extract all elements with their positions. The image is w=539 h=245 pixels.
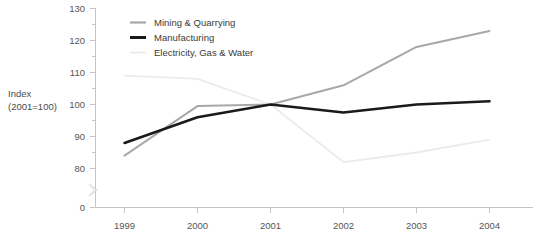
x-tick-label-2001: 2001: [260, 220, 281, 231]
y-tick-label-120: 120: [69, 35, 85, 46]
y-tick-label-130: 130: [69, 3, 85, 14]
legend-label-electricity: Electricity, Gas & Water: [154, 47, 253, 58]
legend-label-mining: Mining & Quarrying: [154, 17, 235, 28]
x-tick-label-1999: 1999: [114, 220, 135, 231]
x-axis-ticks: [125, 208, 490, 214]
y-tick-label-100: 100: [69, 99, 85, 110]
x-tick-label-2003: 2003: [406, 220, 427, 231]
y-axis-tick-labels: 130 120 110 100 90 80 0: [69, 3, 85, 213]
y-tick-label-110: 110: [70, 67, 85, 78]
y-tick-label-90: 90: [74, 131, 85, 142]
x-tick-label-2002: 2002: [333, 220, 354, 231]
x-tick-label-2000: 2000: [187, 220, 208, 231]
y-tick-label-80: 80: [74, 163, 85, 174]
legend-label-manufacturing: Manufacturing: [154, 32, 214, 43]
y-axis-title-line1: Index: [8, 88, 31, 99]
series-line-manufacturing: [125, 101, 490, 143]
y-axis-title: Index (2001=100): [8, 88, 57, 112]
y-tick-label-0: 0: [80, 202, 85, 213]
index-line-chart: 130 120 110 100 90 80 0 Index (2001=100)…: [0, 0, 539, 245]
x-axis-tick-labels: 1999 2000 2001 2002 2003 2004: [114, 220, 500, 231]
chart-legend: Mining & Quarrying Manufacturing Electri…: [130, 17, 253, 58]
y-axis-title-line2: (2001=100): [8, 101, 57, 112]
chart-plot-area: 130 120 110 100 90 80 0 Index (2001=100)…: [0, 0, 539, 245]
x-tick-label-2004: 2004: [479, 220, 500, 231]
y-axis-ticks: [90, 9, 96, 208]
